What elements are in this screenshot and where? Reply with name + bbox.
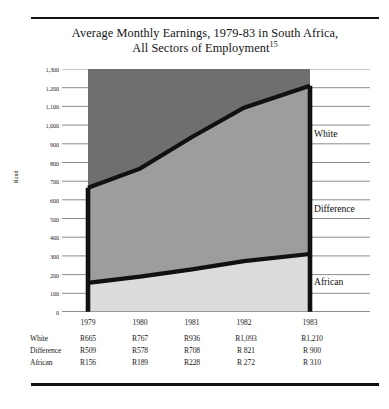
cell-difference-1983: R 900 — [303, 346, 321, 355]
cell-difference-1981: R708 — [184, 346, 200, 355]
cell-white-1981: R936 — [184, 334, 200, 343]
cell-white-1979: R665 — [80, 334, 96, 343]
top-rule — [31, 17, 379, 19]
y-tick-1200: 1,200 — [46, 84, 59, 91]
y-tick-300: 300 — [50, 252, 59, 259]
x-tick-1979: 1979 — [81, 318, 96, 327]
y-tick-1000: 1,000 — [46, 122, 59, 129]
y-axis-tick-labels: 0 100 200 300 400 500 600 700 800 900 1,… — [30, 69, 59, 312]
x-tick-1983: 1983 — [303, 318, 318, 327]
cell-african-1983: R 310 — [303, 358, 321, 367]
footnote-marker: 15 — [270, 40, 278, 49]
series-label-african: African — [314, 276, 343, 287]
table-row: White R665 R767 R936 R1,093 R1,210 — [0, 334, 389, 346]
cell-african-1981: R228 — [184, 358, 200, 367]
x-tick-1980: 1980 — [133, 318, 148, 327]
table-row: African R156 R189 R228 R 272 R 310 — [0, 358, 389, 370]
cell-white-1983: R1,210 — [301, 334, 323, 343]
cell-white-1980: R767 — [132, 334, 148, 343]
chart-title-line2: All Sectors of Employment — [132, 41, 269, 55]
row-label-african: African — [30, 358, 53, 367]
row-label-difference: Difference — [30, 346, 61, 355]
cell-difference-1980: R578 — [132, 346, 148, 355]
cell-difference-1982: R 821 — [237, 346, 255, 355]
y-tick-1100: 1,100 — [46, 103, 59, 110]
x-tick-1981: 1981 — [185, 318, 200, 327]
y-tick-200: 200 — [50, 271, 59, 278]
y-tick-0: 0 — [56, 309, 59, 316]
y-tick-100: 100 — [50, 290, 59, 297]
y-tick-800: 800 — [50, 159, 59, 166]
series-label-white: White — [314, 128, 337, 139]
y-tick-700: 700 — [50, 178, 59, 185]
row-label-white: White — [30, 334, 48, 343]
figure-container: Average Monthly Earnings, 1979-83 in Sou… — [0, 0, 389, 409]
data-table: White R665 R767 R936 R1,093 R1,210 Diffe… — [0, 334, 389, 370]
y-axis-title: Rand — [13, 170, 19, 183]
y-tick-500: 500 — [50, 215, 59, 222]
chart-title-line1: Average Monthly Earnings, 1979-83 in Sou… — [72, 26, 338, 40]
cell-african-1980: R189 — [132, 358, 148, 367]
cell-african-1979: R156 — [80, 358, 96, 367]
cell-african-1982: R 272 — [237, 358, 255, 367]
y-tick-1300: 1,300 — [46, 66, 59, 73]
y-tick-600: 600 — [50, 196, 59, 203]
y-tick-400: 400 — [50, 234, 59, 241]
cell-difference-1979: R509 — [80, 346, 96, 355]
bottom-rule — [31, 383, 379, 386]
chart-title: Average Monthly Earnings, 1979-83 in Sou… — [31, 26, 379, 56]
x-axis-tick-labels: 1979 1980 1981 1982 1983 — [0, 318, 389, 332]
table-row: Difference R509 R578 R708 R 821 R 900 — [0, 346, 389, 358]
series-label-difference: Difference — [314, 203, 355, 214]
y-tick-900: 900 — [50, 140, 59, 147]
cell-white-1982: R1,093 — [235, 334, 257, 343]
x-tick-1982: 1982 — [237, 318, 252, 327]
